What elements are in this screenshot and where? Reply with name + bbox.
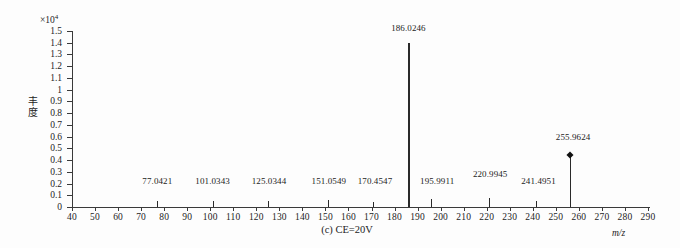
x-axis-tick-label: 250 — [548, 212, 563, 222]
x-axis-tick-label: 130 — [272, 212, 287, 222]
y-axis-tick-label: 1.2 — [50, 61, 62, 71]
y-axis-tick — [67, 184, 72, 185]
peak-label: 125.0344 — [252, 176, 287, 186]
y-axis-tick-label: 0.8 — [50, 108, 62, 118]
spectrum-peak — [157, 201, 158, 207]
x-axis-tick — [141, 207, 142, 211]
x-axis-tick-label: 220 — [479, 212, 494, 222]
x-axis-tick-label: 140 — [295, 212, 310, 222]
spectrum-peak — [328, 200, 329, 207]
x-axis-tick — [487, 207, 488, 211]
y-axis-tick-labels: 00.10.20.30.40.50.60.70.80.911.11.21.31.… — [0, 0, 66, 248]
y-axis-tick-label: 0.7 — [50, 120, 62, 130]
y-axis-tick-label: 0.3 — [50, 167, 62, 177]
y-axis-tick — [67, 172, 72, 173]
spectrum-peak — [373, 202, 374, 207]
y-axis-tick — [67, 43, 72, 44]
y-axis-tick — [67, 125, 72, 126]
x-axis-tick — [579, 207, 580, 211]
peak-label: 77.0421 — [142, 176, 172, 186]
x-axis-tick — [464, 207, 465, 211]
y-axis-tick — [67, 113, 72, 114]
peak-label: 186.0246 — [391, 23, 426, 33]
peak-label: 220.9945 — [473, 169, 508, 179]
x-axis-tick-label: 90 — [182, 212, 192, 222]
x-axis-tick — [279, 207, 280, 211]
spectrum-peak — [213, 201, 214, 207]
y-axis-tick — [67, 54, 72, 55]
x-axis-tick-label: 80 — [159, 212, 169, 222]
peak-label: 170.4547 — [358, 176, 393, 186]
y-axis-tick — [67, 137, 72, 138]
x-axis-tick-label: 290 — [641, 212, 656, 222]
x-axis-tick — [302, 207, 303, 211]
mass-spectrum-figure: ×104 丰度 00.10.20.30.40.50.60.70.80.911.1… — [0, 0, 680, 248]
y-axis-tick-label: 1.3 — [50, 49, 62, 59]
x-axis-tick — [418, 207, 419, 211]
x-axis-tick-label: 160 — [341, 212, 356, 222]
y-axis-tick-label: 1.5 — [50, 26, 62, 36]
y-axis-tick — [67, 148, 72, 149]
y-axis-tick — [67, 207, 72, 208]
x-axis-tick — [187, 207, 188, 211]
x-axis-tick-label: 180 — [387, 212, 402, 222]
x-axis-tick — [533, 207, 534, 211]
x-axis-tick-label: 230 — [502, 212, 517, 222]
x-axis-tick — [395, 207, 396, 211]
peak-label: 101.0343 — [195, 176, 230, 186]
x-axis-tick-label: 70 — [136, 212, 146, 222]
x-axis-tick-label: 100 — [203, 212, 218, 222]
y-axis-tick — [67, 160, 72, 161]
x-axis-tick-label: 60 — [113, 212, 123, 222]
x-axis-tick — [556, 207, 557, 211]
x-axis-tick — [256, 207, 257, 211]
x-axis-tick — [118, 207, 119, 211]
y-axis-tick-label: 0.5 — [50, 143, 62, 153]
spectrum-peak — [570, 155, 571, 207]
y-axis-tick — [67, 90, 72, 91]
x-axis-tick — [72, 207, 73, 211]
y-axis-tick-label: 1 — [57, 85, 62, 95]
x-axis-tick-label: 200 — [433, 212, 448, 222]
x-axis-tick — [372, 207, 373, 211]
x-axis-tick-label: 170 — [364, 212, 379, 222]
x-axis-tick-label: 210 — [456, 212, 471, 222]
y-axis-tick-label: 0.4 — [50, 155, 62, 165]
x-axis-tick — [510, 207, 511, 211]
y-axis-tick-label: 1.1 — [50, 73, 62, 83]
x-axis-line — [72, 207, 650, 208]
spectrum-peak — [408, 43, 409, 207]
x-axis-tick — [441, 207, 442, 211]
y-axis-tick-label: 0.1 — [50, 190, 62, 200]
x-axis-tick-label: 150 — [318, 212, 333, 222]
peak-label: 241.4951 — [521, 176, 556, 186]
y-axis-tick — [67, 195, 72, 196]
spectrum-peak — [536, 201, 537, 207]
x-axis-tick-label: 240 — [525, 212, 540, 222]
y-axis-tick — [67, 78, 72, 79]
y-axis-tick — [67, 101, 72, 102]
x-axis-tick-label: 40 — [67, 212, 77, 222]
x-axis-tick-label: 270 — [594, 212, 609, 222]
x-axis-tick-label: 190 — [410, 212, 425, 222]
x-axis-tick — [164, 207, 165, 211]
x-axis-tick — [648, 207, 649, 211]
y-axis-tick-label: 0 — [57, 202, 62, 212]
x-axis-tick — [210, 207, 211, 211]
x-axis-tick-label: 260 — [571, 212, 586, 222]
peak-label: 151.0549 — [312, 176, 347, 186]
y-axis-tick-label: 0.9 — [50, 96, 62, 106]
x-axis-tick — [233, 207, 234, 211]
y-axis-tick-label: 0.6 — [50, 132, 62, 142]
x-axis-tick-label: 50 — [90, 212, 100, 222]
x-axis-tick — [348, 207, 349, 211]
y-axis-tick — [67, 66, 72, 67]
x-axis-unit-label: m/z — [612, 228, 625, 238]
x-axis-tick — [602, 207, 603, 211]
x-axis-tick-label: 280 — [618, 212, 633, 222]
spectrum-peak — [431, 199, 432, 207]
x-axis-tick — [625, 207, 626, 211]
x-axis-tick-label: 110 — [226, 212, 241, 222]
x-axis-tick-label: 120 — [249, 212, 264, 222]
y-axis-tick-label: 0.2 — [50, 179, 62, 189]
